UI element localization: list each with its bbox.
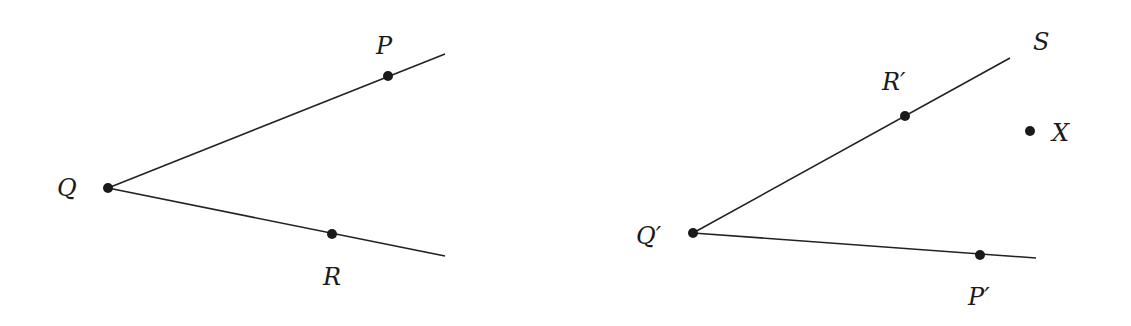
- ray-qp: [108, 54, 445, 188]
- label-r: R: [322, 263, 341, 291]
- ray-q-prime-s: [693, 58, 1010, 233]
- ray-qr: [108, 188, 445, 256]
- right-angle: Q′ R′ P′ X S: [636, 28, 1070, 311]
- label-s: S: [1033, 28, 1049, 56]
- label-r-prime: R′: [881, 68, 906, 96]
- label-p: P: [375, 32, 393, 60]
- point-q: [103, 183, 113, 193]
- point-x: [1025, 126, 1035, 136]
- label-x: X: [1050, 119, 1070, 147]
- label-q-prime: Q′: [636, 222, 662, 250]
- label-p-prime: P′: [967, 283, 990, 311]
- label-q: Q: [57, 174, 77, 202]
- point-p-prime: [975, 250, 985, 260]
- point-p: [383, 71, 393, 81]
- point-r-prime: [900, 111, 910, 121]
- geometry-diagram: Q P R Q′ R′ P′ X S: [0, 0, 1131, 326]
- left-angle: Q P R: [57, 32, 445, 291]
- point-q-prime: [688, 228, 698, 238]
- point-r: [327, 229, 337, 239]
